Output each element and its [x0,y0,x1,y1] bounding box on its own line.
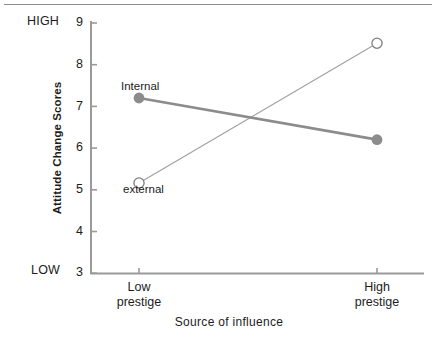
x-tick-label-low-prestige: Low prestige [94,280,184,310]
series-external [134,38,382,188]
x-tick-label-high-prestige-line1: High [332,280,422,295]
series-internal-point-low-prestige [134,93,145,104]
x-axis-title: Source of influence [0,315,436,329]
x-tick-label-low-prestige-line2: prestige [94,295,184,310]
series-internal [134,93,383,146]
attitude-change-line-chart: HIGH LOW Attitude Change Scores 9 8 7 6 … [0,0,436,350]
series-internal-line [139,98,377,140]
series-internal-point-high-prestige [372,134,383,145]
series-label-internal: Internal [121,80,159,92]
series-external-line [139,43,377,183]
series-label-external: external [123,183,164,195]
x-tick-label-high-prestige: High prestige [332,280,422,310]
x-tick-label-low-prestige-line1: Low [94,280,184,295]
x-axis-title-text: Source of influence [175,315,283,329]
series-external-point-high-prestige [372,38,382,48]
x-tick-label-high-prestige-line2: prestige [332,295,422,310]
